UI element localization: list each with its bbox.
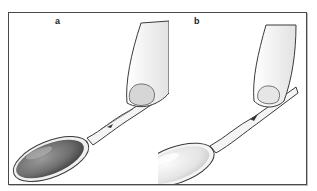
panel-a: a [9,13,158,184]
spoon-bowl-empty [158,134,220,184]
spoon-bowl-filled [9,127,95,184]
figure-frame: a [8,12,307,185]
spoon-illustration-a [9,13,169,184]
spoon-illustration-b [158,13,306,184]
panel-b: b [158,13,306,184]
